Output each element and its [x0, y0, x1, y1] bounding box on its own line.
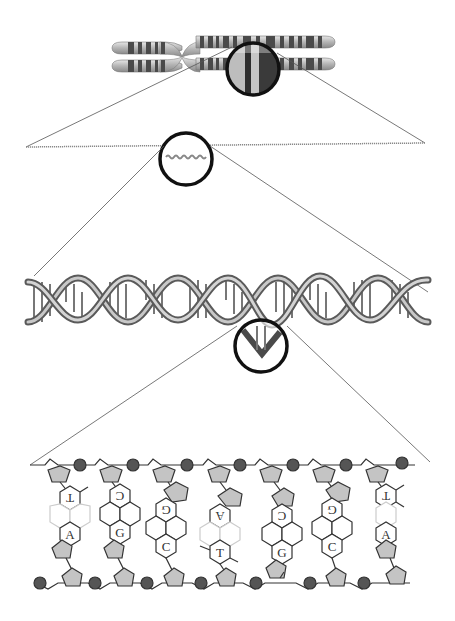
double-helix: [28, 276, 428, 372]
chromosome-bands: [128, 36, 322, 72]
base-letter-bottom-3: C: [162, 539, 171, 554]
base-pair-6: [312, 466, 352, 586]
top-backbone: [30, 459, 415, 465]
base-pair-7: [366, 466, 406, 584]
chromosome: [112, 36, 335, 95]
base-letter-top-4: A: [215, 509, 225, 524]
base-letter-top-2: C: [116, 489, 125, 504]
base-letter-bottom-6: C: [328, 539, 337, 554]
base-letter-bottom-4: T: [216, 545, 224, 560]
base-pair-4: [200, 466, 242, 586]
zoom-circle-helix: [235, 320, 287, 372]
zoom-lines-3: [30, 326, 430, 465]
base-letter-top-1: T: [66, 491, 74, 506]
base-letter-bottom-1: A: [65, 527, 75, 542]
base-letter-top-3: G: [161, 503, 170, 518]
base-letter-top-7: T: [382, 489, 390, 504]
base-letter-top-5: C: [278, 509, 287, 524]
zoom-lines-2: [34, 146, 428, 292]
zoom-circle-chromosome: [227, 43, 279, 95]
base-letter-bottom-5: G: [277, 545, 286, 560]
dna-zoom-diagram: T A C G G C A T C G G C T A: [0, 0, 455, 621]
base-letter-top-6: G: [327, 503, 336, 518]
base-letter-bottom-7: A: [381, 527, 391, 542]
base-pair-3: [146, 466, 188, 586]
base-letter-bottom-2: G: [115, 525, 124, 540]
phosphates-top: [74, 457, 408, 471]
chromatin-fiber: [26, 133, 425, 185]
